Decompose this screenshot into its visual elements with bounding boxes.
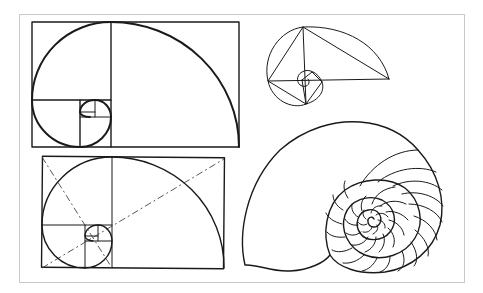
figure-canvas: Golden ratio spirals and nautilus shell … [0,0,483,293]
golden-triangle-spiral [267,27,389,106]
nautilus-shell [243,122,443,273]
golden-rectangle-spiral [32,22,239,147]
golden-rectangle-diagonals [42,156,225,269]
figure-svg [0,0,483,293]
